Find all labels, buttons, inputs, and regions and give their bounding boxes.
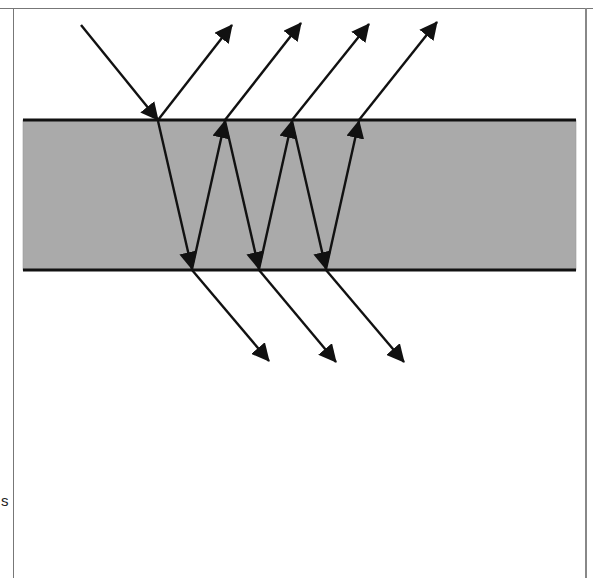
reflected-ray-arrow [292, 24, 369, 120]
slab-ray-diagram [0, 0, 593, 578]
glass-slab [23, 120, 576, 270]
slab-body [23, 120, 576, 270]
transmitted-ray-arrow [192, 270, 269, 361]
transmitted-ray-arrow [259, 270, 336, 362]
reflected-ray-arrow [225, 23, 301, 120]
transmitted-ray-arrow [326, 270, 404, 362]
reflected-ray-arrow [359, 22, 437, 120]
reflected-ray-arrow [158, 25, 232, 120]
incident-ray-arrow [81, 25, 158, 120]
